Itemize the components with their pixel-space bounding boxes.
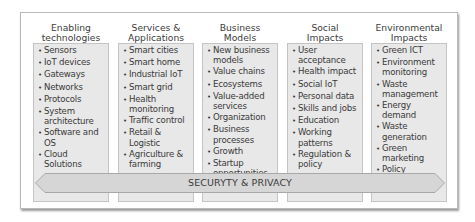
list-item: •Value-added services — [207, 92, 275, 111]
column-heading: Services & Applications — [118, 23, 194, 43]
list-item: •Sensors — [38, 46, 106, 56]
list-item: •Gateways — [38, 70, 106, 80]
band-label: SECURYTY & PRIVACY — [35, 173, 445, 193]
list-item: •Personal data — [292, 92, 360, 102]
list-item: •Regulation & policy — [292, 150, 360, 169]
column-heading: Social Impacts — [287, 23, 363, 43]
heading-line: Applications — [118, 33, 194, 43]
heading-line: Impacts — [287, 33, 363, 43]
list-item: •Traffic control — [123, 116, 191, 126]
list-item: •Organization — [207, 113, 275, 123]
list-item: •Value chains — [207, 67, 275, 77]
list-item: •Working patterns — [292, 128, 360, 147]
list-item: •Industrial IoT — [123, 70, 191, 80]
list-item: •Software and OS — [38, 128, 106, 147]
item-list: •Green ICT •Environment monitoring •Wast… — [372, 44, 446, 175]
list-item: •Ecosystems — [207, 80, 275, 90]
diagram-frame: Enabling technologies •Sensors •IoT devi… — [20, 12, 458, 209]
list-item: •New business models — [207, 46, 275, 65]
list-item: •Health impact — [292, 67, 360, 77]
column-heading: Business Models — [202, 23, 278, 43]
heading-line: technologies — [33, 33, 109, 43]
list-item: •Cloud Solutions — [38, 150, 106, 169]
list-item: •Education — [292, 116, 360, 126]
list-item: •Skills and jobs — [292, 104, 360, 114]
list-item: •Agriculture & farming — [123, 150, 191, 169]
list-item: •Green ICT — [376, 46, 444, 56]
item-list: •Smart cities •Smart home •Industrial Io… — [119, 44, 193, 169]
list-item: •User acceptance — [292, 46, 360, 65]
list-item: •Protocols — [38, 95, 106, 105]
list-item: •Social IoT — [292, 80, 360, 90]
heading-line: Models — [202, 33, 278, 43]
list-item: •Smart grid — [123, 83, 191, 93]
list-item: •Energy demand — [376, 101, 444, 120]
list-item: •Business processes — [207, 125, 275, 144]
list-item: •Waste generation — [376, 122, 444, 141]
list-item: •Smart cities — [123, 46, 191, 56]
list-item: •IoT devices — [38, 58, 106, 68]
list-item: •Environment monitoring — [376, 58, 444, 77]
list-item: •Smart home — [123, 58, 191, 68]
list-item: •Networks — [38, 83, 106, 93]
column-heading: Environmental Impacts — [371, 23, 447, 43]
list-item: •Retail & Logistic — [123, 128, 191, 147]
item-list: •User acceptance •Health impact •Social … — [288, 44, 362, 169]
item-list: •New business models •Value chains •Ecos… — [203, 44, 277, 178]
list-item: •System architecture — [38, 107, 106, 126]
column-heading: Enabling technologies — [33, 23, 109, 43]
heading-line: Impacts — [371, 33, 447, 43]
item-list: •Sensors •IoT devices •Gateways •Network… — [34, 44, 108, 169]
list-item: •Green marketing — [376, 144, 444, 163]
list-item: •Waste management — [376, 80, 444, 99]
security-privacy-band: SECURYTY & PRIVACY — [35, 173, 445, 193]
list-item: •Growth — [207, 147, 275, 157]
list-item: •Health monitoring — [123, 95, 191, 114]
